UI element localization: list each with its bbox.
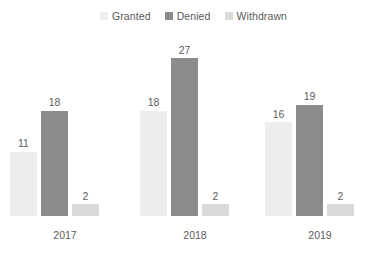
bar-2017-withdrawn-wrap: 2 [72, 38, 99, 216]
bar-chart: Granted Denied Withdrawn 11 18 [0, 0, 387, 254]
bar-2019-denied-wrap: 19 [296, 38, 323, 216]
bar-2018-denied[interactable] [171, 58, 198, 216]
bar-2018-withdrawn-wrap: 2 [202, 38, 229, 216]
bar-2017-granted-label: 11 [4, 138, 44, 149]
bar-group-2017-bars: 11 18 2 [10, 38, 99, 216]
bar-2018-granted-label: 18 [134, 97, 174, 108]
bar-2019-denied[interactable] [296, 105, 323, 216]
bar-group-2018: 18 27 2 2018 [140, 0, 250, 254]
bar-2018-denied-wrap: 27 [171, 38, 198, 216]
category-label-2019: 2019 [265, 230, 375, 241]
bar-2017-denied-wrap: 18 [41, 38, 68, 216]
bar-2019-granted[interactable] [265, 122, 292, 216]
bar-group-2019-bars: 16 19 2 [265, 38, 354, 216]
bar-2018-granted-wrap: 18 [140, 38, 167, 216]
bar-2019-withdrawn-label: 2 [321, 191, 361, 202]
bar-2018-withdrawn-label: 2 [196, 191, 236, 202]
bar-2019-granted-wrap: 16 [265, 38, 292, 216]
bar-2018-withdrawn[interactable] [202, 204, 229, 216]
category-label-2018: 2018 [140, 230, 250, 241]
bar-2017-denied-label: 18 [35, 97, 75, 108]
bar-2019-withdrawn[interactable] [327, 204, 354, 216]
bar-2017-withdrawn-label: 2 [66, 191, 106, 202]
bar-group-2018-bars: 18 27 2 [140, 38, 229, 216]
bar-2018-denied-label: 27 [165, 45, 205, 56]
category-label-2017: 2017 [10, 230, 120, 241]
bar-2017-denied[interactable] [41, 111, 68, 216]
plot-area: 11 18 2 2017 18 [0, 0, 387, 254]
bar-2018-granted[interactable] [140, 111, 167, 216]
bar-2019-withdrawn-wrap: 2 [327, 38, 354, 216]
bar-2017-withdrawn[interactable] [72, 204, 99, 216]
bar-group-2017: 11 18 2 2017 [10, 0, 120, 254]
bar-2019-granted-label: 16 [259, 109, 299, 120]
bar-group-2019: 16 19 2 2019 [265, 0, 375, 254]
bar-2019-denied-label: 19 [290, 91, 330, 102]
bar-2017-granted[interactable] [10, 152, 37, 216]
bar-2017-granted-wrap: 11 [10, 38, 37, 216]
